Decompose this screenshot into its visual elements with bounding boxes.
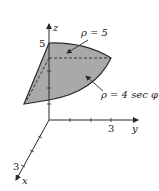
x-axis-label: x bbox=[22, 175, 28, 186]
annotation-rho-5: ρ = 5 bbox=[80, 27, 108, 38]
y-tick-label: 3 bbox=[108, 123, 114, 134]
x-axis bbox=[16, 120, 49, 180]
x-tick-label: 3 bbox=[13, 161, 19, 172]
y-axis-label: y bbox=[131, 123, 138, 134]
z-tick-label: 5 bbox=[39, 38, 45, 49]
z-axis-label: z bbox=[52, 22, 59, 33]
annotation-rho-4secphi: ρ = 4 sec φ bbox=[100, 89, 158, 100]
shaded-solid-region bbox=[24, 43, 111, 104]
spherical-region-diagram: z 5 y 3 x 3 ρ = 5 ρ = 4 sec φ bbox=[0, 0, 159, 191]
